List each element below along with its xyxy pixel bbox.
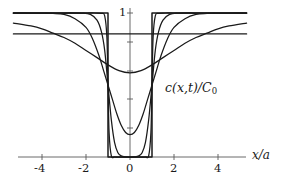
curve-label-args: (x,t) [172,80,198,95]
x-axis-tick-label-2: 2 [170,161,177,175]
figure-diffusion-profiles: 1 -4 -2 0 2 4 x/a c(x,t)/C0 [0,0,287,186]
plot-canvas [0,0,287,186]
curve-label-head: c [165,80,172,95]
curve-quantity-label: c(x,t)/C0 [165,80,217,96]
x-axis-title: x/a [252,148,270,162]
curve-label-cap: C [202,80,212,95]
y-axis-tick-label-1: 1 [119,5,126,19]
x-axis-tick-label-0: 0 [126,161,133,175]
x-axis-tick-label--2: -2 [78,161,89,175]
curve-label-subscript: 0 [212,86,217,96]
x-axis-tick-label-4: 4 [214,161,221,175]
x-axis-tick-label--4: -4 [34,161,45,175]
